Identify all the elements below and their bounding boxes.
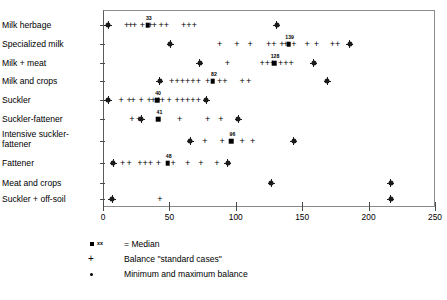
data-point-standard-case [196, 96, 201, 105]
dot-icon [86, 268, 120, 281]
data-point-standard-case [217, 40, 222, 49]
data-point-standard-case [218, 115, 223, 124]
plot-area: 331391288240419648 [103, 10, 435, 207]
data-point-standard-case [148, 21, 153, 30]
data-point-standard-case [205, 115, 210, 124]
median-value-label: 41 [157, 110, 163, 115]
x-axis-tick-label: 100 [229, 213, 243, 222]
median-value-label: 82 [211, 72, 217, 77]
category-label: Suckler [2, 96, 95, 106]
data-point-standard-case [247, 40, 252, 49]
median-value-label: 128 [271, 54, 280, 59]
data-point-standard-case [139, 96, 144, 105]
data-point-minmax [204, 98, 208, 102]
data-point-minmax [312, 61, 316, 65]
data-point-standard-case [314, 40, 319, 49]
legend-label-standard-cases: Balance "standard cases" [124, 254, 222, 265]
median-value-label: 96 [230, 132, 236, 137]
category-label: Suckler + off-soil [2, 195, 95, 205]
data-point-standard-case [190, 77, 195, 86]
y-axis-tick [100, 100, 105, 101]
legend-item-minmax: Minimum and maximum balance [86, 268, 386, 283]
data-point-standard-case [217, 77, 222, 86]
data-point-standard-case [305, 40, 310, 49]
data-point-standard-case [196, 77, 201, 86]
data-point-standard-case [278, 59, 283, 68]
y-axis-tick [100, 141, 105, 142]
data-point-standard-case [169, 77, 174, 86]
x-axis-tick-label: 250 [428, 213, 442, 222]
data-point-minmax [111, 161, 115, 165]
data-point-standard-case [246, 77, 251, 86]
y-axis-tick [100, 63, 105, 64]
data-point-standard-case [271, 40, 276, 49]
data-point-median [155, 98, 160, 103]
data-point-standard-case [150, 96, 155, 105]
data-point-median [211, 79, 216, 84]
data-point-minmax [110, 197, 114, 201]
data-point-standard-case [136, 115, 141, 124]
data-point-median [272, 61, 277, 66]
y-axis-tick [100, 163, 105, 164]
data-point-standard-case [119, 96, 124, 105]
data-point-standard-case [137, 159, 142, 168]
category-label: Milk herbage [2, 21, 95, 31]
chart-figure: Milk herbageSpecialized milkMilk + meatM… [0, 0, 447, 300]
data-point-standard-case [279, 40, 284, 49]
data-point-standard-case [132, 21, 137, 30]
category-axis-labels: Milk herbageSpecialized milkMilk + meatM… [0, 8, 99, 204]
data-point-standard-case [160, 96, 165, 105]
x-axis: 050100150200250 [103, 206, 435, 228]
data-point-minmax [106, 98, 110, 102]
data-point-standard-case [164, 21, 169, 30]
data-point-standard-case [202, 137, 207, 146]
data-point-standard-case [180, 77, 185, 86]
y-axis-tick [100, 44, 105, 45]
data-point-standard-case [250, 137, 255, 146]
data-point-standard-case [225, 59, 230, 68]
data-point-standard-case [129, 115, 134, 124]
data-point-standard-case [330, 40, 335, 49]
data-point-standard-case [140, 21, 145, 30]
y-axis-tick [100, 183, 105, 184]
data-point-standard-case [128, 21, 133, 30]
data-point-median [156, 117, 161, 122]
x-axis-tick [236, 202, 237, 211]
category-label: Intensive suckler- fattener [2, 130, 95, 149]
data-point-standard-case [335, 40, 340, 49]
data-point-standard-case [270, 59, 275, 68]
x-axis-tick [435, 202, 436, 211]
data-point-standard-case [265, 59, 270, 68]
data-point-minmax [269, 181, 273, 185]
data-point-standard-case [291, 40, 296, 49]
data-point-minmax [275, 23, 279, 27]
data-point-standard-case [157, 195, 162, 204]
data-point-standard-case [222, 77, 227, 86]
data-point-minmax [168, 42, 172, 46]
legend-item-standard-cases: + Balance "standard cases" [86, 253, 386, 268]
category-label: Milk and crops [2, 77, 95, 87]
data-point-median [229, 139, 234, 144]
data-point-standard-case [214, 159, 219, 168]
category-label: Suckler-fattener [2, 115, 95, 125]
data-point-minmax [389, 181, 393, 185]
data-point-minmax [389, 197, 393, 201]
data-point-standard-case [156, 159, 161, 168]
data-point-minmax [188, 139, 192, 143]
data-point-standard-case [185, 96, 190, 105]
legend-median-annot: xx [97, 240, 103, 246]
median-value-label: 33 [146, 16, 152, 21]
data-point-standard-case [131, 96, 136, 105]
data-point-minmax [158, 79, 162, 83]
data-point-standard-case [190, 96, 195, 105]
x-axis-tick-label: 150 [295, 213, 309, 222]
data-point-standard-case [283, 40, 288, 49]
data-point-standard-case [266, 40, 271, 49]
legend-item-median: xx = Median [86, 238, 386, 253]
x-axis-tick [103, 202, 104, 211]
data-point-standard-case [180, 96, 185, 105]
category-label: Specialized milk [2, 40, 95, 50]
median-value-label: 139 [285, 35, 294, 40]
data-point-standard-case [234, 40, 239, 49]
x-axis-tick-label: 200 [362, 213, 376, 222]
